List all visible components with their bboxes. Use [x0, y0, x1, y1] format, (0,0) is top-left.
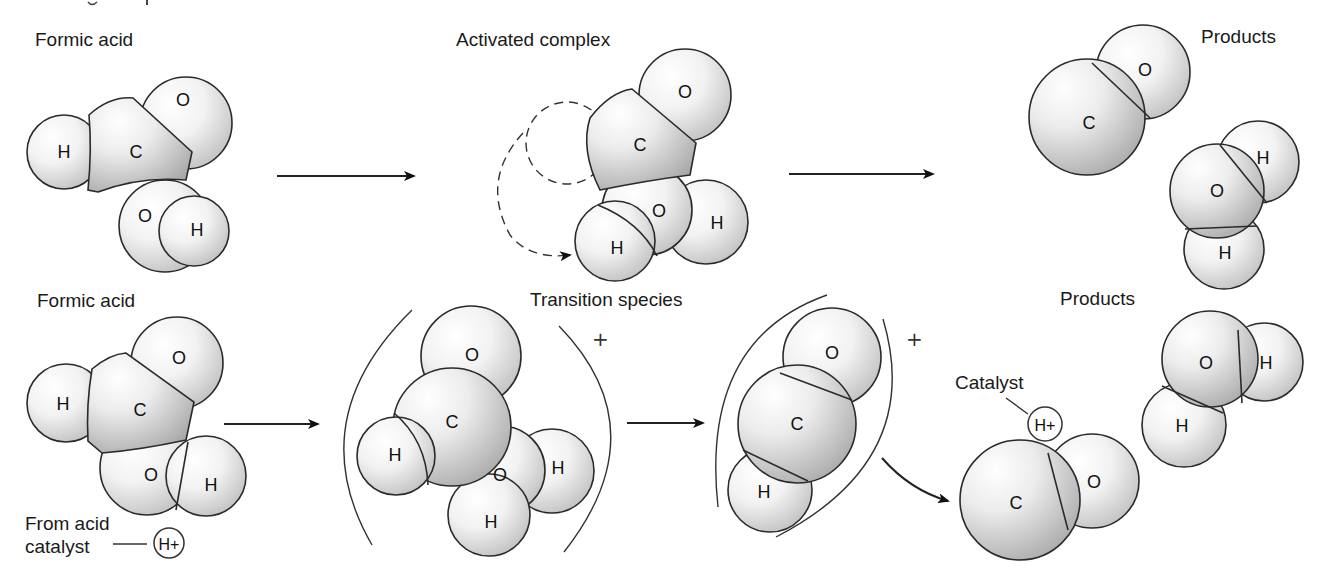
formic-acid-molecule-bottom: H C O O H [27, 317, 246, 516]
atom-label: O [172, 348, 186, 368]
leader-line [1006, 398, 1028, 414]
cropped-text-fragment [88, 0, 148, 5]
caption-transition-species: Transition species [530, 289, 682, 310]
caption-from-acid: From acid [25, 513, 109, 534]
atom-label: O [1138, 60, 1152, 80]
atom-label: O [465, 345, 479, 365]
migration-arrow [498, 133, 570, 256]
atom-label: C [791, 414, 804, 434]
atom-label: O [176, 90, 190, 110]
release-arrow [882, 458, 948, 501]
proton-ion-product: H+ [1028, 407, 1062, 441]
atom-label: C [134, 400, 147, 420]
atom-label: H [205, 475, 218, 495]
atom-label: H [485, 512, 498, 532]
atom-label: O [1199, 353, 1213, 373]
activated-complex-molecule: C O O H H [498, 49, 748, 281]
caption-catalyst-product: Catalyst [955, 372, 1024, 393]
atom-label: O [678, 82, 692, 102]
carbon-monoxide-molecule-bottom: O C [960, 434, 1139, 560]
ion-label: H+ [1035, 417, 1056, 434]
water-molecule-bottom: O H H [1142, 311, 1303, 467]
atom-label: H [711, 213, 724, 233]
atom-label: C [1083, 113, 1096, 133]
positive-charge: + [592, 327, 609, 351]
transition-species-2: O C H [728, 308, 881, 532]
atom-label: H [57, 394, 70, 414]
atom-label: H [1219, 243, 1232, 263]
atom-label: C [130, 142, 143, 162]
atom-label: H [191, 220, 204, 240]
proton-ion-reactant: H+ [154, 528, 184, 558]
caption-products-top: Products [1201, 26, 1276, 47]
atom-label: H [1176, 416, 1189, 436]
caption-products-bottom: Products [1060, 288, 1135, 309]
atom-label: O [825, 343, 839, 363]
atom-label: H [1260, 353, 1273, 373]
caption-formic-acid-top: Formic acid [35, 29, 133, 50]
transition-species-1: O C H O H H [357, 306, 594, 556]
atom-label: O [138, 206, 152, 226]
atom-label: O [1087, 472, 1101, 492]
atom-label: O [144, 465, 158, 485]
atom-label: O [1210, 181, 1224, 201]
caption-catalyst: catalyst [25, 536, 90, 557]
atom-label: O [493, 465, 507, 485]
carbon-monoxide-molecule-top: O C [1029, 25, 1190, 175]
atom-label: H [758, 482, 771, 502]
atom-label: H [58, 142, 71, 162]
atom-label: O [652, 201, 666, 221]
atom-label: H [1257, 148, 1270, 168]
water-molecule-top: H O H [1170, 121, 1299, 289]
formic-acid-molecule-top: H C O O H [27, 77, 232, 272]
atom-label: C [1010, 493, 1023, 513]
reaction-diagram: Formic acid H C O O H Activated complex … [0, 0, 1319, 578]
ion-label: H+ [159, 536, 180, 553]
atom-label: H [611, 238, 624, 258]
atom-label: C [446, 412, 459, 432]
atom-label: C [634, 135, 647, 155]
caption-formic-acid-bottom: Formic acid [37, 290, 135, 311]
positive-charge: + [906, 327, 923, 351]
caption-activated-complex: Activated complex [456, 29, 611, 50]
atom-label: H [389, 445, 402, 465]
atom-label: H [552, 458, 565, 478]
